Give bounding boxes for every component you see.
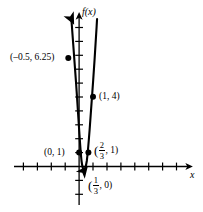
fraction-numerator: 2	[99, 141, 105, 150]
point-marker-neg-half-6-25	[65, 55, 71, 61]
x-axis	[14, 163, 189, 171]
point-label-0-1: (0, 1)	[44, 148, 65, 158]
fraction-denominator: 3	[93, 186, 99, 195]
paren-open: (	[94, 144, 98, 157]
y-axis	[75, 16, 83, 205]
point-label-one-third-0: ( 1 3 , 0)	[88, 176, 112, 195]
point-label-two-thirds-1: ( 2 3 , 1)	[94, 141, 118, 160]
paren-close-text: , 0)	[100, 181, 113, 191]
parabola-graph-figure: f(x) x (–0.5, 6.25) (1, 4) (0, 1) ( 2 3 …	[0, 0, 203, 212]
y-axis-label: f(x)	[82, 7, 96, 17]
point-marker-0-1	[76, 150, 82, 156]
paren-close-text: , 1)	[106, 146, 119, 156]
paren-open: (	[88, 179, 92, 192]
fraction-one-third: 1 3	[93, 176, 99, 195]
fraction-denominator: 3	[99, 151, 105, 160]
x-axis-label: x	[190, 170, 194, 180]
point-label-1-4: (1, 4)	[99, 92, 120, 102]
fraction-two-thirds: 2 3	[99, 141, 105, 160]
point-marker-two-thirds-1	[85, 150, 91, 156]
point-marker-1-4	[90, 94, 96, 100]
point-label-neg-half-6-25: (–0.5, 6.25)	[10, 53, 54, 63]
fraction-numerator: 1	[93, 176, 99, 185]
